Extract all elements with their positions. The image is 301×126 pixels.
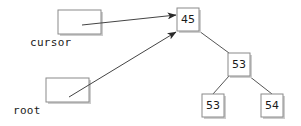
node-value-53-inner: 53 xyxy=(228,59,250,71)
diagram-canvas xyxy=(0,0,301,126)
pointer-label-cursor: cursor xyxy=(30,37,72,49)
node-value-53-leaf: 53 xyxy=(202,100,224,112)
edge-53-to-54leaf xyxy=(249,76,272,94)
pointer-box-root xyxy=(46,78,91,104)
node-value-45: 45 xyxy=(177,14,199,26)
pointer-label-root: root xyxy=(13,105,41,117)
binary-tree-diagram: 45 53 53 54 cursor root xyxy=(0,0,301,126)
edge-53-to-53leaf xyxy=(213,76,229,94)
node-value-54-leaf: 54 xyxy=(261,100,283,112)
arrow-root-to-node45 xyxy=(69,32,176,97)
edge-45-to-53 xyxy=(199,31,229,53)
